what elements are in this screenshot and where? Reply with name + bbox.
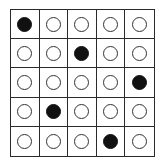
- grid-cell-3-2: [68, 98, 97, 127]
- grid-cell-2-0: [11, 68, 40, 97]
- filled-circle-icon: [103, 134, 118, 149]
- empty-circle-icon: [74, 17, 89, 32]
- empty-circle-icon: [132, 46, 147, 61]
- empty-circle-icon: [103, 104, 118, 119]
- empty-circle-icon: [74, 75, 89, 90]
- empty-circle-icon: [103, 17, 118, 32]
- grid-cell-1-3: [97, 39, 126, 68]
- empty-circle-icon: [74, 104, 89, 119]
- empty-circle-icon: [17, 134, 32, 149]
- grid-cell-4-1: [40, 127, 69, 156]
- grid-cell-2-2: [68, 68, 97, 97]
- circle-grid: [10, 9, 155, 157]
- grid-cell-3-4: [125, 98, 154, 127]
- empty-circle-icon: [132, 104, 147, 119]
- grid-cell-3-0: [11, 98, 40, 127]
- grid-cell-4-4: [125, 127, 154, 156]
- grid-cell-0-2: [68, 10, 97, 39]
- empty-circle-icon: [17, 46, 32, 61]
- grid-cell-3-1: [40, 98, 69, 127]
- grid-cell-2-1: [40, 68, 69, 97]
- filled-circle-icon: [46, 104, 61, 119]
- grid-cell-4-2: [68, 127, 97, 156]
- grid-cell-0-1: [40, 10, 69, 39]
- grid-cell-0-3: [97, 10, 126, 39]
- grid-cell-1-0: [11, 39, 40, 68]
- empty-circle-icon: [103, 46, 118, 61]
- grid-cell-1-2: [68, 39, 97, 68]
- grid-cell-1-4: [125, 39, 154, 68]
- empty-circle-icon: [46, 134, 61, 149]
- grid-cell-0-4: [125, 10, 154, 39]
- grid-cell-2-4: [125, 68, 154, 97]
- grid-cell-3-3: [97, 98, 126, 127]
- empty-circle-icon: [17, 104, 32, 119]
- empty-circle-icon: [46, 46, 61, 61]
- empty-circle-icon: [74, 134, 89, 149]
- grid-cell-4-0: [11, 127, 40, 156]
- grid-cell-2-3: [97, 68, 126, 97]
- empty-circle-icon: [46, 75, 61, 90]
- grid-cell-0-0: [11, 10, 40, 39]
- grid-cell-1-1: [40, 39, 69, 68]
- empty-circle-icon: [17, 75, 32, 90]
- filled-circle-icon: [74, 46, 89, 61]
- empty-circle-icon: [46, 17, 61, 32]
- empty-circle-icon: [132, 134, 147, 149]
- grid-cell-4-3: [97, 127, 126, 156]
- filled-circle-icon: [132, 75, 147, 90]
- empty-circle-icon: [103, 75, 118, 90]
- filled-circle-icon: [17, 17, 32, 32]
- empty-circle-icon: [132, 17, 147, 32]
